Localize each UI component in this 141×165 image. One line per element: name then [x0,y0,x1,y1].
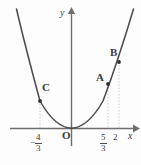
point-label-b: B [110,47,117,58]
point-label-c: C [42,82,50,93]
numerator: 4 [35,133,42,142]
point-c-marker [38,99,42,103]
point-b-marker [117,60,121,64]
x-axis-arrowhead [133,125,140,133]
denominator: 3 [100,144,107,153]
tick-label-two: 2 [113,133,118,142]
point-label-a: A [96,72,104,83]
x-axis-label: x [128,131,132,141]
y-axis-label: y [60,8,64,18]
parabola-figure: C A B y x O − 4 3 5 3 2 [0,0,141,165]
y-axis-arrowhead [68,7,75,14]
numerator: 5 [100,133,107,142]
tick-label-five-thirds: 5 3 [100,133,107,153]
minus-sign-icon: − [30,138,35,147]
point-a-marker [106,82,110,86]
denominator: 3 [35,144,42,153]
tick-label-neg-four-thirds: − 4 3 [35,133,42,153]
parabola-curve [17,9,134,128]
origin-label: O [62,130,71,141]
